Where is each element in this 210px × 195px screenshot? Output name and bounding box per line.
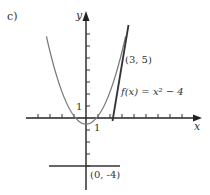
y-axis-arrow-icon: [83, 11, 90, 21]
graph: y x 1 1 (3, 5) f(x) = x² − 4 (0, -4): [0, 0, 210, 195]
x-axis-label: x: [194, 120, 201, 133]
tangent-line-at-3-5: [113, 25, 129, 121]
point-label-3-5: (3, 5): [125, 54, 152, 65]
y-tick-label-one: 1: [76, 101, 82, 112]
y-axis-label: y: [75, 9, 83, 22]
x-tick-label-one: 1: [94, 122, 100, 133]
point-label-vertex: (0, -4): [90, 169, 120, 180]
function-label: f(x) = x² − 4: [120, 86, 184, 97]
y-axis: [83, 11, 90, 190]
